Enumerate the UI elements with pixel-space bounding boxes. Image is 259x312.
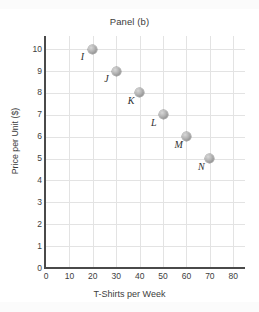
- gridline-horizontal: [46, 180, 245, 181]
- x-tick-label: 0: [35, 272, 57, 281]
- gridline-horizontal: [46, 224, 245, 225]
- x-tick-label: 60: [175, 272, 197, 281]
- y-axis-title: Price per Unit ($): [10, 76, 20, 206]
- gridline-vertical: [186, 36, 187, 268]
- y-tick-label: 9: [20, 67, 42, 76]
- x-axis-line: [44, 267, 245, 269]
- y-tick-label: 1: [20, 242, 42, 251]
- x-tick-label: 50: [152, 272, 174, 281]
- y-tick-label: 4: [20, 176, 42, 185]
- y-tick-label: 6: [20, 132, 42, 141]
- x-tick-label: 70: [199, 272, 221, 281]
- gridline-horizontal: [46, 49, 245, 50]
- x-tick-label: 80: [222, 272, 244, 281]
- x-tick-label: 10: [58, 272, 80, 281]
- y-axis-line: [44, 36, 46, 269]
- x-tick-label: 40: [129, 272, 151, 281]
- gridline-vertical: [163, 36, 164, 268]
- data-point-marker: [112, 67, 121, 76]
- gridline-horizontal: [46, 202, 245, 203]
- data-point-marker: [135, 88, 144, 97]
- y-tick-label: 10: [20, 45, 42, 54]
- data-point-marker: [182, 132, 191, 141]
- gridline-vertical: [69, 36, 70, 268]
- x-tick-label: 20: [82, 272, 104, 281]
- gridline-vertical: [140, 36, 141, 268]
- y-tick-label: 8: [20, 88, 42, 97]
- data-point-marker: [205, 154, 214, 163]
- gridline-horizontal: [46, 71, 245, 72]
- gridline-horizontal: [46, 115, 245, 116]
- data-point-marker: [88, 45, 97, 54]
- data-point-label: J: [104, 73, 108, 84]
- x-axis-title: T-Shirts per Week: [0, 289, 259, 299]
- plot-area: IJKLMN: [46, 36, 245, 268]
- chart-figure: Panel (b) IJKLMN 012345678910 0102030405…: [0, 0, 259, 312]
- gridline-horizontal: [46, 159, 245, 160]
- x-tick-label: 30: [105, 272, 127, 281]
- data-point-label: L: [151, 117, 157, 128]
- gridline-horizontal: [46, 137, 245, 138]
- y-tick-label: 5: [20, 154, 42, 163]
- gridline-horizontal: [46, 246, 245, 247]
- data-point-label: K: [128, 95, 135, 106]
- data-point-label: I: [81, 51, 84, 62]
- data-point-marker: [159, 110, 168, 119]
- gridline-horizontal: [46, 93, 245, 94]
- data-point-label: M: [174, 139, 182, 150]
- gridline-vertical: [93, 36, 94, 268]
- y-tick-label: 3: [20, 198, 42, 207]
- data-point-label: N: [198, 161, 205, 172]
- gridline-vertical: [210, 36, 211, 268]
- y-tick-label: 7: [20, 110, 42, 119]
- y-tick-label: 2: [20, 220, 42, 229]
- gridline-vertical: [233, 36, 234, 268]
